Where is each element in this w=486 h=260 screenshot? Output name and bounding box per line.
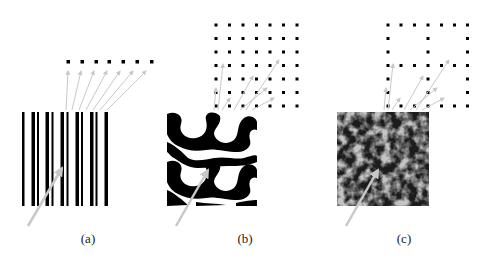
panel-c (337, 24, 469, 227)
figure-canvas (0, 0, 486, 260)
panel-b (167, 24, 299, 227)
mapping-arrows (66, 71, 146, 110)
dot-row (67, 60, 154, 64)
gray-noise-texture (337, 112, 429, 206)
mapping-arrows (384, 60, 449, 110)
mapping-arrows (214, 60, 279, 110)
stripe-texture (22, 112, 108, 206)
blob-texture (167, 112, 257, 206)
panel-a-label: (a) (68, 231, 108, 247)
panel-c-label: (c) (384, 231, 424, 247)
panel-b-label: (b) (225, 231, 265, 247)
panel-a (22, 60, 154, 226)
